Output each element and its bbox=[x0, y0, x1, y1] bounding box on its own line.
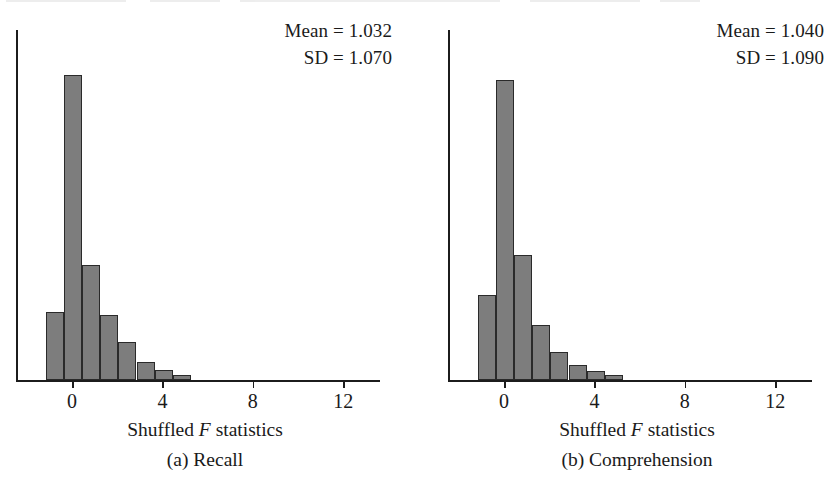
plot-area-recall bbox=[16, 30, 380, 382]
x-ticklabel-comprehension-12: 12 bbox=[755, 390, 795, 413]
bar-comprehension-7 bbox=[605, 375, 623, 380]
x-ticklabel-comprehension-0: 0 bbox=[484, 390, 524, 413]
x-tick-comprehension-8 bbox=[685, 382, 687, 388]
x-axis-line-recall bbox=[16, 380, 380, 382]
bar-recall-4 bbox=[118, 342, 136, 380]
bar-comprehension-4 bbox=[550, 352, 568, 380]
bar-recall-6 bbox=[155, 370, 173, 380]
bar-recall-1 bbox=[64, 75, 82, 380]
bars-group-recall bbox=[16, 30, 380, 380]
x-axis-caption-recall-pre: Shuffled bbox=[127, 419, 199, 440]
panel-comprehension: Mean = 1.040 SD = 1.090 0 4 8 1 bbox=[432, 0, 837, 481]
bar-comprehension-0 bbox=[478, 295, 496, 380]
x-ticklabel-recall-8: 8 bbox=[233, 390, 273, 413]
bar-recall-5 bbox=[137, 362, 155, 380]
x-axis-line-comprehension bbox=[448, 380, 812, 382]
x-tick-recall-4 bbox=[162, 382, 164, 388]
x-tick-comprehension-0 bbox=[504, 382, 506, 388]
x-ticklabel-comprehension-4: 4 bbox=[574, 390, 614, 413]
bar-recall-3 bbox=[100, 315, 118, 380]
x-tick-recall-8 bbox=[253, 382, 255, 388]
bar-recall-2 bbox=[82, 265, 100, 380]
x-ticklabel-recall-0: 0 bbox=[52, 390, 92, 413]
x-axis-caption-comprehension-symbol: F bbox=[631, 419, 643, 440]
x-ticklabel-comprehension-8: 8 bbox=[665, 390, 705, 413]
x-tick-recall-12 bbox=[343, 382, 345, 388]
plot-area-comprehension bbox=[448, 30, 812, 382]
x-axis-caption-recall-symbol: F bbox=[199, 419, 211, 440]
x-tick-comprehension-4 bbox=[594, 382, 596, 388]
panel-recall: Mean = 1.032 SD = 1.070 0 4 8 1 bbox=[0, 0, 410, 481]
bar-comprehension-6 bbox=[587, 371, 605, 380]
bar-comprehension-1 bbox=[496, 80, 514, 380]
bar-comprehension-5 bbox=[569, 365, 587, 380]
x-axis-caption-comprehension: Shuffled F statistics bbox=[432, 418, 837, 443]
x-axis-caption-comprehension-post: statistics bbox=[643, 419, 715, 440]
subcaption-recall: (a) Recall bbox=[0, 448, 410, 473]
bars-group-comprehension bbox=[448, 30, 812, 380]
figure-two-histograms: Mean = 1.032 SD = 1.070 0 4 8 1 bbox=[0, 0, 837, 481]
x-tick-recall-0 bbox=[72, 382, 74, 388]
bar-recall-0 bbox=[46, 312, 64, 380]
bar-comprehension-3 bbox=[532, 325, 550, 380]
x-axis-caption-comprehension-pre: Shuffled bbox=[559, 419, 631, 440]
x-axis-caption-recall-post: statistics bbox=[211, 419, 283, 440]
x-ticklabel-recall-4: 4 bbox=[142, 390, 182, 413]
x-axis-caption-recall: Shuffled F statistics bbox=[0, 418, 410, 443]
x-ticklabel-recall-12: 12 bbox=[323, 390, 363, 413]
bar-comprehension-2 bbox=[514, 255, 532, 380]
x-tick-comprehension-12 bbox=[775, 382, 777, 388]
subcaption-comprehension: (b) Comprehension bbox=[432, 448, 837, 473]
bar-recall-7 bbox=[173, 375, 191, 380]
